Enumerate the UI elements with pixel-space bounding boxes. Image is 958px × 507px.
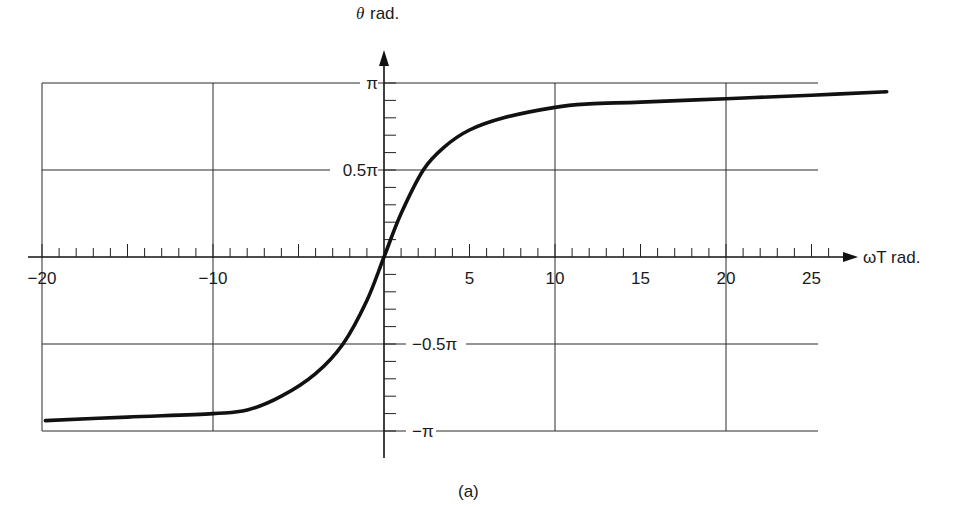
figure-caption: (a)	[458, 482, 479, 502]
x-axis-label: ωT rad.	[863, 248, 920, 267]
y-tick-label: −0.5π	[412, 335, 457, 354]
x-tick-label: 5	[465, 269, 474, 288]
x-tick-label: 20	[717, 269, 736, 288]
y-tick-label: −π	[412, 422, 434, 441]
x-axis-arrow-icon	[843, 252, 858, 262]
x-tick-label: −20	[28, 269, 57, 288]
y-axis-arrow-icon	[379, 50, 389, 66]
axes	[28, 50, 858, 458]
x-tick-label: 10	[546, 269, 565, 288]
x-tick-label: 15	[631, 269, 650, 288]
x-tick-label: 25	[802, 269, 821, 288]
x-tick-label: −10	[199, 269, 228, 288]
y-axis-symbol: θ	[356, 4, 364, 23]
x-tick-labels: −20−10510152025	[28, 269, 821, 288]
y-axis-unit: rad.	[370, 4, 399, 23]
y-tick-label: 0.5π	[343, 161, 378, 180]
phase-chart: −20−10510152025 π0.5π−0.5π−π ωT rad. θ r…	[0, 0, 958, 507]
y-tick-label: π	[366, 74, 378, 93]
x-minor-ticks	[42, 244, 829, 257]
